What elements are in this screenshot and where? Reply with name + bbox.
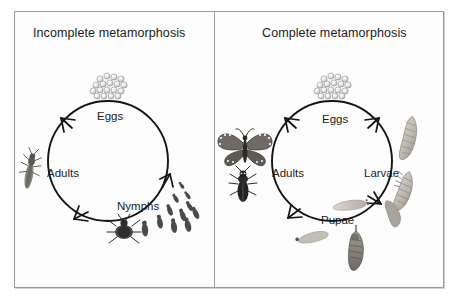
cycle-arrow-complete-topright: [365, 118, 379, 132]
cycle-arrow-incomplete-top: [61, 118, 75, 132]
egg-cluster-icon-left: [90, 73, 127, 99]
diagram-artwork: [0, 0, 456, 300]
cycle-arrow-incomplete-bottom: [74, 206, 88, 221]
butterfly-icon: [218, 129, 272, 166]
beetle-icon: [229, 166, 257, 202]
pupa-cocoon-icon-top: [333, 199, 370, 212]
pupa-chrysalis-icon-hanging: [348, 225, 363, 270]
nymph-series-icon: [141, 181, 201, 237]
adult-insect-icon-left-side: [17, 147, 44, 191]
cycle-arrow-complete-topleft: [285, 118, 299, 132]
egg-cluster-icon-right: [314, 73, 351, 99]
metamorphosis-figure: Incomplete metamorphosis Complete metamo…: [0, 0, 456, 300]
grub-larva-icon-1: [399, 115, 419, 161]
pupa-cocoon-icon-left: [295, 229, 329, 245]
